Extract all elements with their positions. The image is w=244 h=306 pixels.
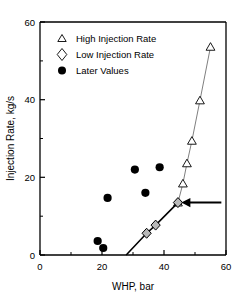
legend: High Injection Rate Low Injection Rate L…: [57, 33, 156, 77]
data-point: [94, 237, 102, 245]
data-point: [188, 137, 197, 145]
y-tick-label-20: 20: [24, 172, 35, 183]
y-tick-label-40: 40: [24, 94, 35, 105]
y-tick-label-60: 60: [24, 17, 35, 28]
data-point: [156, 163, 164, 171]
data-point: [206, 43, 215, 51]
series-later-values: [94, 163, 164, 252]
data-point: [103, 194, 111, 202]
x-axis-ticks: [40, 250, 226, 255]
data-point: [131, 165, 139, 173]
legend-marker-diamond-open: [57, 49, 67, 61]
y-tick-label-0: 0: [30, 250, 35, 261]
y-axis-ticks: [40, 22, 45, 255]
x-tick-label-20: 20: [97, 261, 108, 272]
series-high-injection-rate: [174, 43, 215, 206]
series-line: [126, 203, 178, 255]
legend-label-later-values: Later Values: [76, 65, 129, 76]
legend-label-low-injection-rate: Low Injection Rate: [76, 49, 154, 60]
data-point: [99, 244, 107, 252]
data-point: [196, 96, 205, 104]
data-point: [179, 179, 188, 187]
chart-figure: 0 20 40 60 0 20 40 60 WHP, bar Injection…: [0, 0, 244, 306]
y-axis-title: Injection Rate, kg/s: [5, 96, 16, 181]
scatter-plot: 0 20 40 60 0 20 40 60 WHP, bar Injection…: [0, 0, 244, 306]
data-point: [183, 159, 192, 167]
legend-label-high-injection-rate: High Injection Rate: [76, 33, 156, 44]
x-tick-label-0: 0: [37, 261, 42, 272]
annotation-arrow: [181, 198, 221, 207]
legend-marker-circle-filled: [58, 67, 66, 75]
x-tick-label-60: 60: [221, 261, 232, 272]
x-tick-label-40: 40: [159, 261, 170, 272]
x-axis-title: WHP, bar: [112, 281, 155, 292]
series-low-injection-rate: [126, 198, 182, 255]
data-point: [141, 189, 149, 197]
legend-marker-triangle-open: [58, 35, 66, 42]
